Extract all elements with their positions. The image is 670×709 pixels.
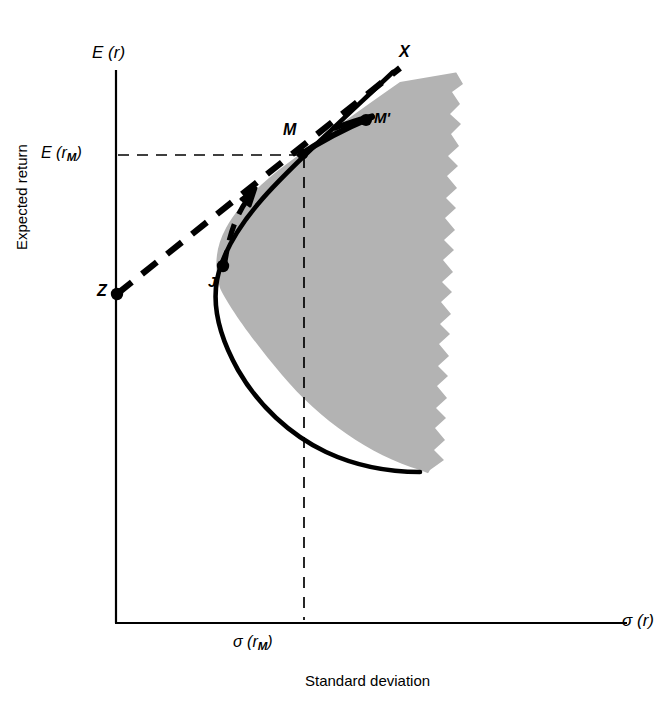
y-axis-title: Expected return [14,70,29,250]
tick-erm-main: E (r [41,144,67,161]
point-label-m: M [283,122,296,138]
point-label-x: X [399,44,410,60]
chart-canvas [0,0,670,709]
point-z-dot[interactable] [111,288,123,300]
point-label-j: J [208,274,216,289]
tick-sigma-subscript: M [258,640,268,652]
point-label-mprime: M' [374,110,390,125]
point-label-z: Z [97,283,107,299]
tick-sigma-close: ) [267,633,272,650]
point-j-dot[interactable] [217,260,229,272]
point-m-dot[interactable] [298,149,308,159]
y-axis-tick-label-erm: E (rM) [41,145,82,163]
tick-erm-subscript: M [67,151,77,163]
y-axis-symbol-label: E (r) [92,44,125,61]
figure-efficient-frontier: E (r) Expected return E (rM) σ (r) σ (rM… [0,0,670,709]
x-axis-symbol-label: σ (r) [622,612,654,629]
x-axis-tick-label-sigma-rm: σ (rM) [233,634,273,652]
x-axis-title: Standard deviation [305,673,430,688]
tick-sigma-main: σ (r [233,633,258,650]
tick-erm-close: ) [76,144,81,161]
point-mprime-dot[interactable] [360,114,372,126]
